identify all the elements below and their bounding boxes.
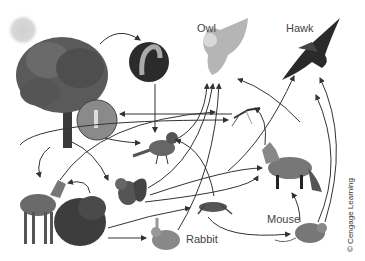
rabbit-label: Rabbit [186, 233, 218, 245]
blue-jay-icon [133, 132, 178, 164]
owl-label: Owl [197, 22, 216, 34]
shrub-icon [54, 196, 106, 246]
rabbit-icon [151, 218, 180, 250]
mouse-icon [275, 223, 327, 243]
squirrel-icon [115, 178, 147, 205]
sun-icon [7, 14, 39, 46]
caterpillar-closeup-icon [129, 42, 169, 82]
mouse-label: Mouse [267, 213, 300, 225]
grasshopper-icon [198, 202, 232, 214]
mosquito-icon [232, 108, 260, 126]
food-web-diagram [0, 0, 365, 261]
insect-closeup-icon [77, 100, 117, 140]
fox-icon [262, 142, 322, 192]
copyright-credit: © Cengage Learning [346, 178, 355, 252]
hawk-label: Hawk [286, 22, 314, 34]
